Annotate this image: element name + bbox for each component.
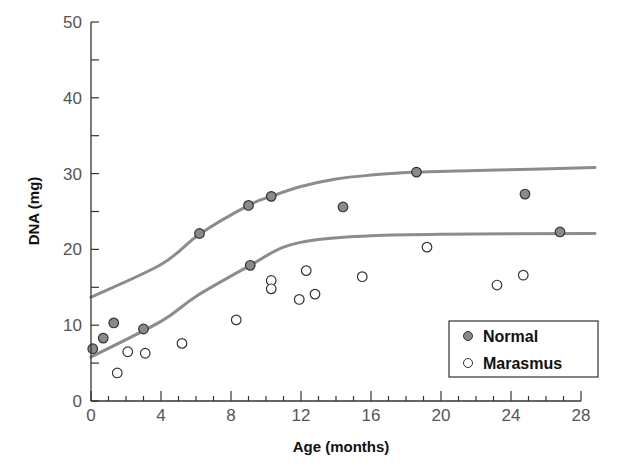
data-point-normal [88, 344, 98, 354]
y-tick-label: 10 [63, 316, 82, 335]
data-point-marasmus [518, 270, 528, 280]
x-tick-label: 8 [226, 406, 235, 425]
data-point-normal [195, 229, 205, 239]
x-tick-label: 12 [292, 406, 311, 425]
x-tick-label: 20 [432, 406, 451, 425]
y-tick-label: 30 [63, 165, 82, 184]
data-point-marasmus [140, 348, 150, 358]
x-tick-label: 24 [502, 406, 521, 425]
legend-normal-marker-icon [464, 332, 473, 341]
data-point-marasmus [294, 295, 304, 305]
data-point-marasmus [112, 368, 122, 378]
data-point-marasmus [177, 339, 187, 349]
data-point-marasmus [492, 280, 502, 290]
data-point-normal [266, 192, 276, 202]
chart: 010203040500481216202428 Age (months) DN… [0, 0, 629, 471]
x-tick-label: 16 [362, 406, 381, 425]
data-point-normal [412, 167, 422, 177]
data-point-marasmus [357, 272, 367, 282]
y-tick-label: 20 [63, 240, 82, 259]
x-tick-label: 0 [86, 406, 95, 425]
data-point-normal [139, 324, 149, 334]
y-tick-label: 50 [63, 13, 82, 32]
legend-marasmus-marker-icon [464, 359, 473, 368]
x-axis-title: Age (months) [293, 438, 390, 455]
x-tick-label: 28 [572, 406, 591, 425]
data-point-marasmus [123, 347, 133, 357]
data-point-marasmus [422, 242, 432, 252]
data-point-marasmus [231, 315, 241, 325]
data-point-normal [109, 318, 119, 328]
data-point-normal [555, 227, 565, 237]
data-point-marasmus [301, 266, 311, 276]
legend: Normal Marasmus [449, 321, 598, 377]
data-point-normal [244, 201, 254, 211]
data-point-normal [338, 202, 348, 212]
legend-normal-label: Normal [483, 328, 538, 345]
data-point-marasmus [310, 289, 320, 299]
data-point-normal [520, 189, 530, 199]
y-tick-label: 40 [63, 89, 82, 108]
legend-marasmus-label: Marasmus [483, 355, 562, 372]
x-tick-label: 4 [156, 406, 165, 425]
data-point-marasmus [266, 284, 276, 294]
y-axis-title: DNA (mg) [25, 177, 42, 246]
y-tick-label: 0 [73, 392, 82, 411]
data-point-normal [98, 333, 108, 343]
data-point-normal [245, 261, 255, 271]
